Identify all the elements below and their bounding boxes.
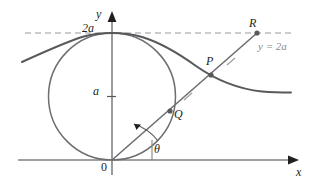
witch-of-agnesi-curve — [22, 33, 291, 93]
point-Q-marker — [167, 108, 172, 113]
point-R-label: R — [249, 17, 256, 29]
point-P-label: P — [206, 55, 213, 67]
witch-of-agnesi-figure: y x 0 2a a P Q R θ y = 2a — [0, 0, 311, 190]
angle-theta-label: θ — [154, 143, 160, 155]
ray-OR — [112, 33, 257, 160]
x-axis-label: x — [296, 166, 301, 178]
x-axis-arrow-icon — [288, 156, 299, 165]
y-axis-label: y — [96, 8, 101, 20]
y-axis-arrow-icon — [108, 11, 117, 22]
tick-label-a: a — [93, 85, 99, 97]
point-P-marker — [208, 72, 213, 77]
tick-label-2a: 2a — [82, 22, 94, 34]
point-Q-label: Q — [174, 108, 183, 120]
asymptote-label: y = 2a — [258, 41, 287, 52]
point-R-marker — [254, 30, 259, 35]
theta-arrow-icon — [134, 124, 141, 130]
origin-label: 0 — [101, 161, 107, 173]
figure-canvas — [0, 0, 311, 190]
